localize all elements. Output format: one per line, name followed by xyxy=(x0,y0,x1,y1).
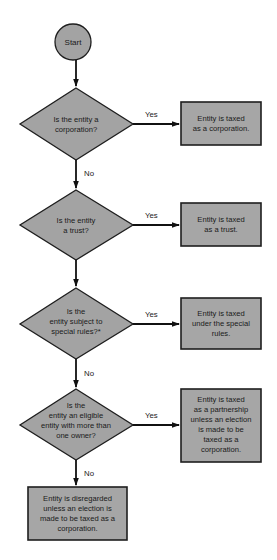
decision-text-line: Is the xyxy=(67,307,86,316)
tax-classification-flowchart: Start Is the entity a corporation? Yes N… xyxy=(0,0,277,560)
outcome-text-line: Entity is taxed xyxy=(197,114,244,123)
outcome-text-line: unless an election is xyxy=(43,504,112,513)
decision-text-line: Is the entity xyxy=(57,216,96,225)
decision-text-line: entity subject to xyxy=(50,317,103,326)
outcome-corporation: Entity is taxed as a corporation. xyxy=(181,102,261,145)
decision-text-line: entity an eligible xyxy=(49,411,103,420)
outcome-text-line: made to be taxed as a xyxy=(40,514,116,523)
decision-diamond xyxy=(20,88,133,160)
decision-trust: Is the entity a trust? xyxy=(20,190,133,260)
outcome-text-line: corporation. xyxy=(57,524,97,533)
decision-diamond xyxy=(20,190,133,260)
decision-text-line: corporation? xyxy=(55,125,97,134)
outcome-text-line: under the special xyxy=(192,319,250,328)
edge-label-no: No xyxy=(84,369,95,378)
start-label: Start xyxy=(65,38,83,47)
decision-text-line: special rules?* xyxy=(51,327,100,336)
outcome-text-line: rules. xyxy=(212,329,231,338)
outcome-text-line: Entity is taxed xyxy=(197,395,244,404)
outcome-trust: Entity is taxed as a trust. xyxy=(181,203,261,246)
decision-eligible-multi-owner: Is the entity an eligible entity with mo… xyxy=(20,389,133,460)
edge-label-yes: Yes xyxy=(145,211,158,220)
outcome-text-line: as a corporation. xyxy=(193,124,250,133)
decision-text-line: one owner? xyxy=(56,431,96,440)
edge-label-yes: Yes xyxy=(145,310,158,319)
outcome-text-line: unless an election xyxy=(191,415,252,424)
outcome-text-line: Entity is taxed xyxy=(197,215,244,224)
start-node: Start xyxy=(55,24,91,60)
decision-text-line: a trust? xyxy=(63,226,88,235)
outcome-text-line: is made to be xyxy=(198,425,244,434)
decision-text-line: Is the entity a xyxy=(53,115,99,124)
outcome-text-line: as a trust. xyxy=(204,225,237,234)
edge-label-no: No xyxy=(84,169,95,178)
outcome-text-line: corporation. xyxy=(201,445,241,454)
decision-text-line: entity with more than xyxy=(41,421,111,430)
outcome-text-line: as a partnership xyxy=(194,405,248,414)
edge-label-yes: Yes xyxy=(145,411,158,420)
edge-label-yes: Yes xyxy=(145,110,158,119)
decision-special-rules: Is the entity subject to special rules?* xyxy=(20,288,133,359)
outcome-text-line: taxed as a xyxy=(203,435,239,444)
outcome-text-line: Entity is taxed xyxy=(197,309,244,318)
decision-text-line: Is the xyxy=(67,401,86,410)
outcome-special-rules: Entity is taxed under the special rules. xyxy=(181,298,261,349)
edge-label-no: No xyxy=(84,469,95,478)
outcome-text-line: Entity is disregarded xyxy=(43,494,112,503)
outcome-partnership: Entity is taxed as a partnership unless … xyxy=(181,389,261,462)
outcome-disregarded: Entity is disregarded unless an election… xyxy=(28,487,127,540)
decision-corporation: Is the entity a corporation? xyxy=(20,88,133,160)
